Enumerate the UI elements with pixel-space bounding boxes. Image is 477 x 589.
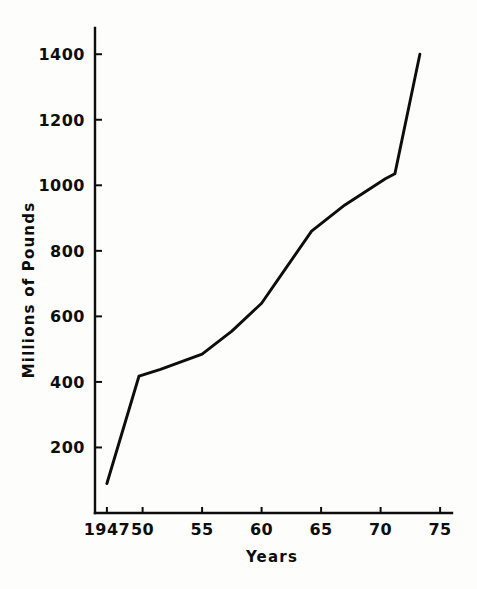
x-tick-label: 60 [250, 520, 273, 539]
y-axis-tick-labels: 200400600800100012001400 [38, 45, 85, 457]
line-chart-canvas: 200400600800100012001400 194750556065707… [0, 0, 477, 589]
x-axis-tick-labels: 1947505560657075 [84, 520, 452, 539]
y-tick-label: 600 [50, 307, 85, 326]
y-tick-label: 1000 [38, 176, 85, 195]
y-tick-label: 1200 [38, 111, 85, 130]
data-series-line [107, 54, 420, 483]
x-tick-label: 55 [190, 520, 213, 539]
x-axis-title: Years [245, 548, 298, 566]
x-tick-label: 65 [309, 520, 332, 539]
y-tick-label: 1400 [38, 45, 85, 64]
x-tick-label: 1947 [84, 520, 131, 539]
x-tick-label: 70 [369, 520, 392, 539]
y-tick-label: 800 [50, 242, 85, 261]
x-tick-label: 75 [428, 520, 451, 539]
y-tick-label: 200 [50, 438, 85, 457]
x-tick-label: 50 [131, 520, 154, 539]
chart-figure: 200400600800100012001400 194750556065707… [0, 0, 477, 589]
y-tick-label: 400 [50, 373, 85, 392]
y-axis-title: Millions of Pounds [20, 202, 38, 379]
